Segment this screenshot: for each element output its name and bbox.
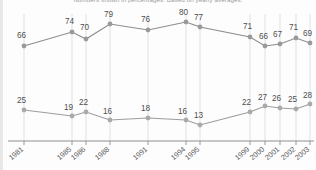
data-point-label: 25 — [17, 96, 27, 105]
x-axis-label: 1999 — [233, 145, 251, 162]
data-point-label: 66 — [259, 32, 269, 41]
line-chart: Numbers shown in percentages. Based on y… — [0, 0, 316, 170]
chart-plot-area: 667470797680777166677169 251922161816132… — [0, 0, 316, 170]
data-point-marker — [108, 22, 113, 27]
data-point-marker — [263, 104, 268, 109]
data-point-marker — [84, 37, 89, 42]
data-point-label: 79 — [104, 10, 114, 19]
data-point-label: 67 — [273, 30, 283, 39]
data-point-label: 26 — [272, 94, 282, 103]
data-point-marker — [146, 116, 151, 121]
data-point-label: 71 — [289, 23, 299, 32]
data-point-marker — [294, 107, 299, 112]
x-axis-label: 2003 — [293, 145, 311, 162]
x-axis-label: 2000 — [248, 145, 266, 162]
data-point-marker — [184, 118, 189, 123]
data-point-marker — [248, 35, 253, 40]
data-point-label: 16 — [103, 107, 113, 116]
data-point-marker — [22, 44, 27, 49]
data-point-marker — [294, 36, 299, 41]
data-point-label: 80 — [179, 8, 189, 17]
data-point-marker — [184, 20, 189, 25]
data-point-label: 28 — [303, 91, 313, 100]
data-point-marker — [22, 108, 27, 113]
data-point-marker — [278, 106, 283, 111]
x-axis-label: 1981 — [7, 145, 25, 162]
data-point-label: 22 — [79, 98, 89, 107]
data-point-marker — [108, 118, 113, 123]
data-point-label: 13 — [194, 111, 204, 120]
data-point-label: 18 — [141, 104, 151, 113]
x-axis-label: 1991 — [131, 145, 149, 162]
data-point-label: 77 — [194, 13, 204, 22]
data-point-label: 27 — [258, 93, 268, 102]
data-point-marker — [70, 114, 75, 119]
data-point-marker — [278, 42, 283, 47]
data-point-marker — [146, 28, 151, 33]
data-point-marker — [308, 41, 313, 46]
data-point-label: 16 — [178, 107, 188, 116]
x-axis-label: 1986 — [69, 145, 87, 162]
data-point-marker — [308, 102, 313, 107]
data-point-label: 70 — [80, 23, 90, 32]
x-axis-label: 1988 — [93, 145, 111, 162]
series-value-labels-lower: 251922161816132227262528 — [17, 91, 313, 120]
data-point-marker — [248, 110, 253, 115]
data-point-label: 74 — [65, 17, 75, 26]
data-point-label: 71 — [243, 22, 253, 31]
data-point-label: 22 — [242, 98, 252, 107]
series-value-labels-upper: 667470797680777166677169 — [17, 8, 313, 41]
data-point-marker — [70, 30, 75, 35]
data-point-marker — [263, 44, 268, 49]
data-point-marker — [198, 123, 203, 128]
data-point-marker — [84, 110, 89, 115]
x-axis-label: 1995 — [183, 145, 201, 162]
data-point-marker — [198, 25, 203, 30]
data-point-label: 66 — [17, 31, 27, 40]
data-point-label: 76 — [141, 15, 151, 24]
x-axis-label: 2001 — [263, 145, 281, 162]
data-point-label: 25 — [288, 95, 298, 104]
data-point-label: 19 — [64, 103, 74, 112]
x-axis-tick-labels: 1981198519861988199119941995199920002001… — [7, 145, 311, 162]
data-point-label: 69 — [303, 29, 313, 38]
